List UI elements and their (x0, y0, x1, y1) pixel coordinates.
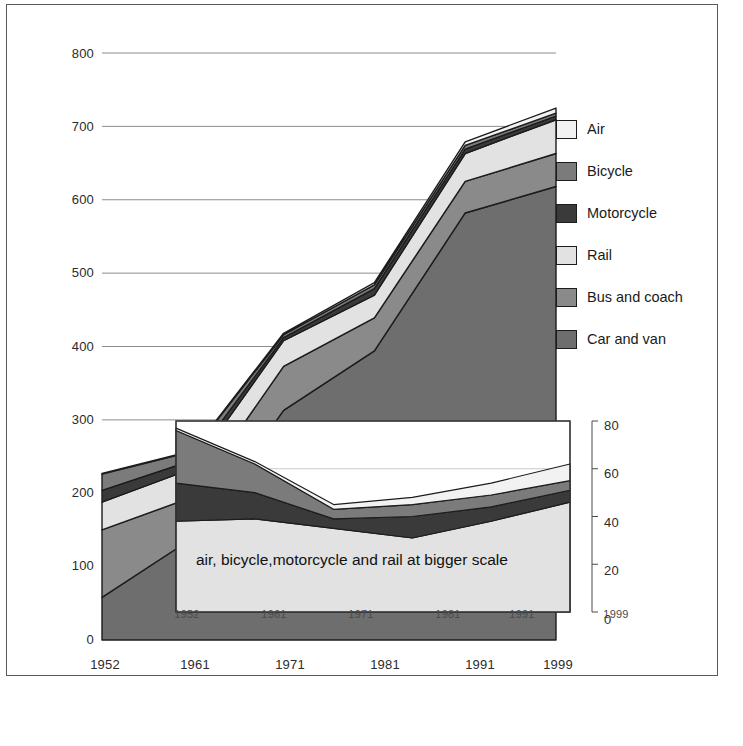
x-tick-1961: 1961 (165, 657, 225, 672)
x-tick-1971: 1971 (260, 657, 320, 672)
legend-item-bus-and-coach[interactable]: Bus and coach (556, 276, 731, 318)
inset-x-tick-1981: 1981 (420, 608, 476, 620)
y-tick-300: 300 (48, 412, 94, 427)
inset-x-tick-1961: 1961 (246, 608, 302, 620)
legend-swatch-icon (556, 246, 577, 265)
y-tick-800: 800 (48, 46, 94, 61)
inset-tick-marks (592, 421, 598, 612)
legend-item-motorcycle[interactable]: Motorcycle (556, 192, 731, 234)
legend-item-rail[interactable]: Rail (556, 234, 731, 276)
inset-y-tick-80: 80 (604, 418, 644, 433)
inset-y-tick-60: 60 (604, 466, 644, 481)
legend-item-label: Bus and coach (587, 289, 683, 305)
inset-y-tick-40: 40 (604, 515, 644, 530)
y-tick-600: 600 (48, 192, 94, 207)
legend-item-label: Rail (587, 247, 612, 263)
y-tick-0: 0 (48, 632, 94, 647)
chart-page: 8007006005004003002001000 19521961197119… (0, 0, 743, 746)
legend-item-car-and-van[interactable]: Car and van (556, 318, 731, 360)
legend-swatch-icon (556, 120, 577, 139)
legend-item-label: Motorcycle (587, 205, 657, 221)
legend-swatch-icon (556, 330, 577, 349)
legend-item-label: Car and van (587, 331, 666, 347)
legend-item-air[interactable]: Air (556, 108, 731, 150)
inset-x-tick-1991: 1991 (494, 608, 550, 620)
legend-swatch-icon (556, 288, 577, 307)
x-tick-1981: 1981 (355, 657, 415, 672)
x-tick-1999: 1999 (528, 657, 588, 672)
legend-swatch-icon (556, 204, 577, 223)
x-tick-1952: 1952 (75, 657, 135, 672)
chart-legend: AirBicycleMotorcycleRailBus and coachCar… (556, 108, 731, 360)
y-tick-200: 200 (48, 485, 94, 500)
inset-chart (176, 421, 570, 612)
x-tick-1991: 1991 (450, 657, 510, 672)
legend-swatch-icon (556, 162, 577, 181)
y-tick-700: 700 (48, 119, 94, 134)
inset-caption-text: air, bicycle,motorcycle and rail at bigg… (196, 551, 566, 569)
inset-x-tick-1952: 1952 (159, 608, 215, 620)
y-tick-400: 400 (48, 339, 94, 354)
y-tick-500: 500 (48, 265, 94, 280)
inset-x-tick-1971: 1971 (333, 608, 389, 620)
legend-item-label: Bicycle (587, 163, 633, 179)
inset-y-tick-20: 20 (604, 563, 644, 578)
legend-item-bicycle[interactable]: Bicycle (556, 150, 731, 192)
legend-item-label: Air (587, 121, 605, 137)
y-tick-100: 100 (48, 558, 94, 573)
inset-x-tick-1999: 1999 (588, 608, 644, 620)
